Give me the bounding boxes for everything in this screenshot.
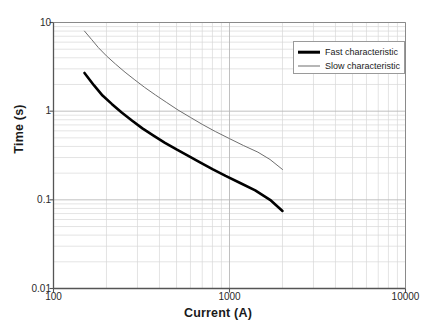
x-tick-label: 1000 bbox=[218, 291, 240, 302]
legend-label-slow: Slow characteristic bbox=[325, 60, 400, 72]
legend-item-slow: Slow characteristic bbox=[294, 59, 404, 73]
y-axis-title: Time (s) bbox=[12, 84, 26, 174]
legend-line-swatch-slow bbox=[298, 62, 320, 70]
y-tick-label: 0.1 bbox=[37, 194, 51, 205]
y-tick-label: 10 bbox=[40, 17, 51, 28]
time-current-characteristic-chart: Time (s) Current (A) 1010.10.01 10010001… bbox=[0, 0, 436, 334]
x-tick-label: 10000 bbox=[392, 291, 420, 302]
x-tick-label: 100 bbox=[45, 291, 62, 302]
legend-label-fast: Fast characteristic bbox=[325, 46, 398, 58]
chart-legend: Fast characteristic Slow characteristic bbox=[293, 41, 405, 74]
legend-line-swatch-fast bbox=[298, 48, 320, 56]
y-tick-label: 1 bbox=[45, 105, 51, 116]
legend-item-fast: Fast characteristic bbox=[294, 45, 404, 59]
x-axis-title: Current (A) bbox=[0, 306, 436, 320]
